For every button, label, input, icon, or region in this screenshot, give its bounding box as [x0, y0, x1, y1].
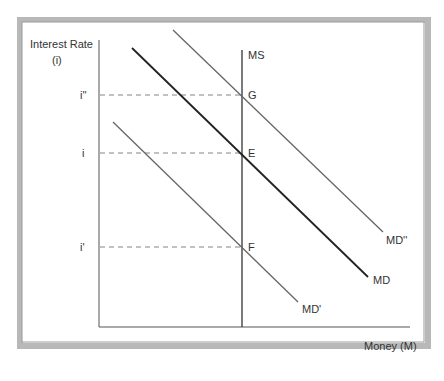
rate-label-high: i'' [80, 89, 87, 101]
money-supply-label: MS [248, 49, 265, 61]
point-label-e: E [248, 147, 255, 159]
point-label-g: G [248, 89, 257, 101]
frame [22, 22, 424, 342]
md-high-label: MD'' [386, 234, 407, 246]
x-axis-label: Money (M) [364, 340, 417, 352]
y-axis-label-symbol: (i) [52, 54, 62, 66]
point-label-f: F [248, 241, 255, 253]
money-market-diagram: Interest Rate (i) i'' i i' MS G E F MD''… [0, 0, 444, 381]
rate-label-low: i' [80, 241, 85, 253]
y-axis-label: Interest Rate [30, 38, 93, 50]
md-label: MD [373, 274, 390, 286]
md-low-label: MD' [302, 303, 321, 315]
rate-label-mid: i [82, 147, 84, 159]
